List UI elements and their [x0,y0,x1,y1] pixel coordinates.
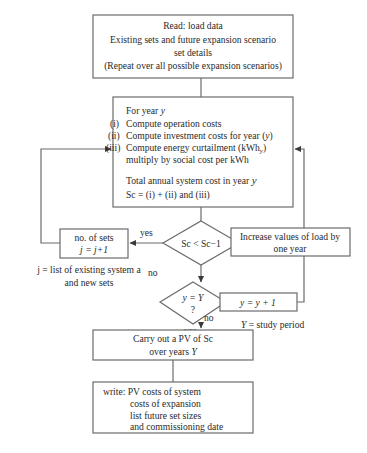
compute-header: For year y [126,105,166,116]
compute-item-2-text: Compute investment costs for year (y) [126,130,273,142]
increase-box-line-1: Increase values of load by [240,231,340,242]
decision-year-line-2: ? [191,304,195,315]
compute-formula: Sc = (i) + (ii) and (iii) [126,189,210,201]
read-box-line-3: set details [174,47,212,58]
compute-item-2-num: (ii) [108,130,120,142]
decision-cost-text: Sc < Sc−1 [181,238,221,249]
write-box: write: PV costs of system costs of expan… [93,382,253,433]
read-box-line-2: Existing sets and future expansion scena… [110,34,276,45]
label-year-no: no [204,312,214,323]
compute-item-3-num: (iii) [106,142,120,154]
pv-box-line-2: over years Y [149,346,198,357]
decision-year-diamond: y = Y ? [160,282,226,324]
read-box-line-4: (Repeat over all possible expansion scen… [104,60,282,72]
compute-item-3-cont: multiply by social cost per kWh [126,154,249,165]
connector-increment-loop-back [295,149,304,302]
year-increment-text: y = y + 1 [239,297,276,308]
sets-box: no. of sets j = j+1 [60,229,128,258]
year-increment-box: y = y + 1 [220,293,297,311]
sets-note-line-2: and new sets [64,277,113,288]
write-box-line-4: and commissioning date [130,421,223,432]
decision-cost-diamond: Sc < Sc−1 [163,221,239,265]
write-box-line-1: write: PV costs of system [103,386,201,397]
read-box-line-1: Read: load data [163,20,223,31]
compute-item-1-text: Compute operation costs [126,118,222,129]
increase-load-box: Increase values of load by one year [231,228,350,256]
compute-box: For year y (i) Compute operation costs (… [106,97,293,207]
pv-box: Carry out a PV of Sc over years Y [93,330,253,360]
label-cost-no: no [148,267,158,278]
compute-total-line: Total annual system cost in year y [126,174,257,186]
compute-item-1-num: (i) [110,118,119,130]
write-box-line-2: costs of expansion [130,398,201,409]
pv-box-line-1: Carry out a PV of Sc [133,333,213,344]
flowchart-canvas: Read: load data Existing sets and future… [0,0,367,453]
increase-box-line-2: one year [274,243,308,254]
study-period-note: Y = study period [241,319,304,330]
write-box-line-3: list future set sizes [130,410,201,421]
sets-box-line-2: j = j+1 [78,244,108,255]
decision-year-line-1: y = Y [182,292,206,303]
sets-box-line-1: no. of sets [74,232,113,243]
sets-note-line-1: j = list of existing system a [36,264,141,275]
read-box: Read: load data Existing sets and future… [93,15,293,78]
label-cost-yes: yes [140,227,153,238]
